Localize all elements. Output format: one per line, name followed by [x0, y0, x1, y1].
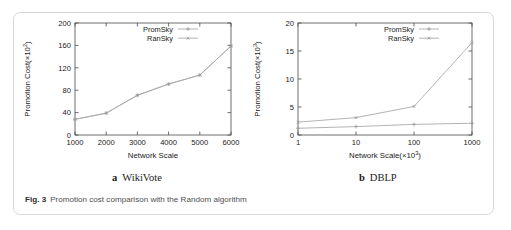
y-tick-label: 200: [58, 19, 71, 28]
subcaption-b-text: DBLP: [370, 172, 397, 183]
chart-legend: PromSkyRanSky: [143, 25, 198, 43]
y-tick-label: 40: [63, 108, 71, 117]
data-point-promsky-3: [470, 121, 474, 125]
y-tick-label: 120: [58, 64, 71, 73]
x-tick-label: 4000: [160, 138, 177, 147]
data-point-promsky-2: [412, 122, 416, 126]
data-point-promsky-1: [354, 125, 358, 129]
subcaption-a-text: WikiVote: [122, 172, 162, 183]
legend-label-ransky: RanSky: [147, 34, 173, 43]
chart-panel-dblp: 051015201101001000Network Scale(×103)Pro…: [246, 13, 494, 173]
chart-legend: PromSkyRanSky: [384, 25, 439, 43]
y-tick-label: 160: [58, 41, 71, 50]
y-tick-label: 5: [290, 103, 294, 112]
legend-label-promsky: PromSky: [143, 25, 173, 34]
legend-label-ransky: RanSky: [388, 34, 414, 43]
legend-marker-promsky: [427, 27, 431, 31]
x-tick-label: 1000: [67, 138, 84, 147]
series-line-ransky: [298, 43, 472, 123]
figure-container: 04080120160200100020003000400050006000Ne…: [13, 12, 494, 215]
y-tick-label: 0: [290, 131, 294, 140]
figure-number: Fig. 3: [25, 195, 46, 204]
series-line-promsky: [298, 123, 472, 128]
subcaption-b-letter: b: [359, 172, 365, 183]
y-axis-title: Promotion Cost(×103): [252, 41, 262, 117]
x-axis-title: Network Scale: [128, 151, 178, 160]
figure-caption: Fig. 3Promotion cost comparison with the…: [25, 195, 485, 204]
series-line-promsky: [75, 46, 231, 119]
x-tick-label: 5000: [191, 138, 208, 147]
plot-frame: [298, 23, 472, 135]
legend-label-promsky: PromSky: [384, 25, 414, 34]
x-tick-label: 2000: [98, 138, 115, 147]
charts-row: 04080120160200100020003000400050006000Ne…: [14, 13, 495, 173]
chart-panel-wikivote: 04080120160200100020003000400050006000Ne…: [16, 13, 246, 173]
y-tick-label: 80: [63, 86, 71, 95]
y-axis-title: Promotion Cost(×102): [22, 41, 32, 117]
x-tick-label: 6000: [223, 138, 240, 147]
data-point-promsky-0: [296, 126, 300, 130]
line-chart-wikivote: 04080120160200100020003000400050006000Ne…: [16, 13, 246, 173]
y-tick-label: 10: [286, 75, 294, 84]
x-tick-label: 3000: [129, 138, 146, 147]
y-tick-label: 15: [286, 47, 294, 56]
series-line-ransky: [75, 46, 231, 119]
y-tick-label: 20: [286, 19, 294, 28]
legend-marker-promsky: [186, 27, 190, 31]
line-chart-dblp: 051015201101001000Network Scale(×103)Pro…: [246, 13, 494, 173]
x-tick-label: 100: [408, 138, 421, 147]
x-tick-label: 1: [296, 138, 300, 147]
x-tick-label: 1000: [464, 138, 481, 147]
subcaption-b: bDBLP: [359, 172, 397, 183]
x-tick-label: 10: [352, 138, 360, 147]
figure-caption-text: Promotion cost comparison with the Rando…: [50, 195, 247, 204]
x-axis-title: Network Scale(×103): [349, 150, 421, 160]
subcaption-row: aWikiVote bDBLP: [14, 171, 495, 193]
subcaption-a: aWikiVote: [112, 172, 162, 183]
subcaption-a-letter: a: [112, 172, 117, 183]
